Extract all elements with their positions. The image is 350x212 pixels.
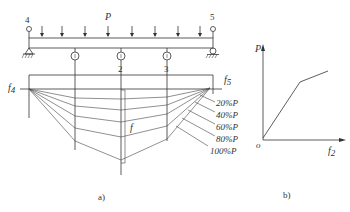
figure-b-caption: b) — [283, 190, 291, 200]
load-level-40-label: 40%P — [216, 110, 238, 120]
dial-gauge-2 — [117, 48, 125, 60]
load-level-60-label: 60%P — [216, 122, 238, 132]
midspan-deflection-bracket — [121, 90, 125, 163]
x-axis-label: f2 — [328, 145, 336, 158]
midspan-deflection-label: f — [130, 122, 134, 133]
load-level-20-label: 20%P — [216, 98, 238, 108]
figure-b: P o f2 b) — [254, 43, 346, 200]
load-label: P — [104, 11, 111, 22]
support-4 — [22, 27, 35, 59]
load-level-80-label: 80%P — [216, 134, 238, 144]
y-axis-label: P — [254, 43, 261, 54]
curve-80 — [29, 88, 210, 137]
diagram-canvas: P 4 5 — [0, 0, 350, 212]
figure-a-caption: a) — [98, 192, 105, 202]
gauge-2-label: 2 — [118, 64, 123, 74]
gauge-3-label: 3 — [164, 64, 169, 74]
f4-label: f4 — [8, 82, 16, 95]
y-axis-arrow-icon — [261, 44, 265, 51]
f5-label: f5 — [224, 74, 232, 87]
curve-60 — [29, 88, 210, 122]
distributed-load-arrows — [40, 26, 202, 37]
support-5-label: 5 — [210, 12, 215, 22]
x-axis-arrow-icon — [339, 138, 346, 142]
dial-gauge-1 — [71, 48, 79, 60]
load-deflection-curve — [263, 71, 328, 138]
curve-20 — [29, 88, 210, 99]
support-5 — [206, 27, 219, 59]
beam — [29, 38, 213, 48]
figure-a: P 4 5 — [8, 11, 238, 202]
dial-gauge-3 — [163, 48, 171, 60]
load-level-100-label: 100%P — [210, 146, 237, 156]
load-level-leaders — [176, 95, 215, 146]
origin-label: o — [256, 140, 261, 150]
deflection-curves — [29, 88, 210, 160]
support-4-label: 4 — [25, 15, 30, 25]
